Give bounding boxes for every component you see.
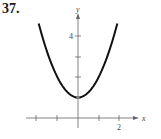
x-tick-label-2: 2 [117,123,121,132]
y-axis [75,13,81,128]
y-tick-label-4: 4 [69,32,73,41]
vertex-point [77,96,80,99]
x-axis-arrow-icon [133,116,139,120]
graph: y x 4 2 [0,0,161,139]
x-axis-label: x [141,114,146,123]
x-axis [26,115,139,121]
y-axis-label: y [75,5,80,14]
